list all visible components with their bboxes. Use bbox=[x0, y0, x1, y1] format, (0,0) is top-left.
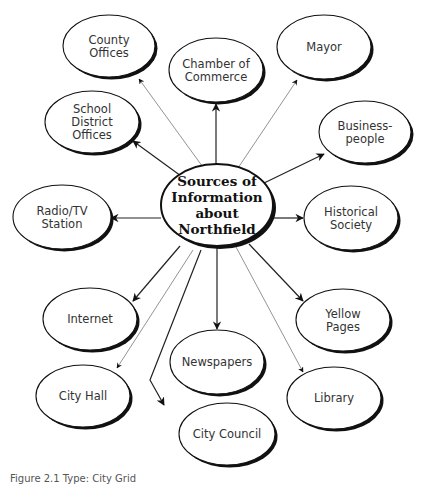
node-label-line: City Hall bbox=[59, 389, 107, 403]
node-historical-society: HistoricalSociety bbox=[304, 186, 401, 253]
node-label-line: Offices bbox=[89, 46, 129, 60]
node-label-line: Offices bbox=[72, 128, 112, 142]
node-newspapers: Newspapers bbox=[170, 330, 267, 397]
node-label-line: Radio/TV bbox=[36, 204, 87, 218]
node-label-line: Newspapers bbox=[182, 355, 253, 369]
arrow-to-business-people bbox=[262, 154, 324, 184]
arrow-to-internet bbox=[133, 246, 180, 301]
node-label-line: District bbox=[71, 115, 113, 129]
node-label-line: Chamber of bbox=[182, 57, 250, 71]
node-library: Library bbox=[287, 367, 384, 432]
node-label-line: Society bbox=[330, 218, 372, 232]
node-yellow-pages: YellowPages bbox=[296, 289, 393, 354]
node-label-line: Station bbox=[42, 217, 83, 231]
node-label-line: Commerce bbox=[185, 70, 247, 84]
node-label-line: Pages bbox=[326, 320, 360, 334]
node-label-line: Historical bbox=[324, 205, 378, 219]
node-mayor: Mayor bbox=[277, 15, 374, 82]
node-label-line: Mayor bbox=[306, 40, 342, 54]
arrow-to-yellow-pages bbox=[249, 244, 303, 301]
node-internet: Internet bbox=[43, 288, 140, 353]
node-label-line: Internet bbox=[67, 312, 113, 326]
node-city-council: City Council bbox=[179, 403, 278, 468]
node-label-line: School bbox=[73, 102, 111, 116]
node-label-line: about bbox=[195, 205, 239, 221]
node-label-line: Northfield bbox=[178, 221, 256, 237]
node-label-line: Sources of bbox=[177, 173, 258, 189]
node-city-hall: City Hall bbox=[36, 365, 133, 430]
node-radio-tv-station: Radio/TVStation bbox=[13, 185, 114, 252]
node-county-offices: CountyOffices bbox=[63, 15, 158, 80]
figure-caption: Figure 2.1 Type: City Grid bbox=[10, 473, 136, 484]
node-label-line: Information bbox=[171, 189, 262, 205]
node-label-line: County bbox=[89, 33, 130, 47]
node-label-line: people bbox=[346, 132, 385, 146]
arrow-to-school-district-offices bbox=[133, 141, 181, 176]
node-school-district-offices: SchoolDistrictOffices bbox=[45, 91, 142, 156]
node-business-people: Business-people bbox=[319, 101, 414, 166]
node-label-line: Business- bbox=[338, 119, 393, 133]
node-label-line: Yellow bbox=[324, 307, 360, 321]
central-topic-node: Sources ofInformationaboutNorthfield bbox=[161, 164, 276, 249]
node-chamber-of-commerce: Chamber ofCommerce bbox=[169, 38, 266, 105]
node-label-line: Library bbox=[314, 391, 354, 405]
node-label-line: City Council bbox=[193, 427, 262, 441]
